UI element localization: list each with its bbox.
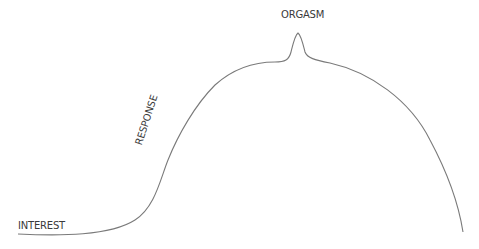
- response-curve-svg: [0, 0, 479, 249]
- label-orgasm: ORGASM: [281, 9, 324, 20]
- response-curve: [18, 33, 463, 235]
- label-interest: INTEREST: [18, 220, 65, 231]
- diagram-canvas: INTEREST RESPONSE ORGASM: [0, 0, 479, 249]
